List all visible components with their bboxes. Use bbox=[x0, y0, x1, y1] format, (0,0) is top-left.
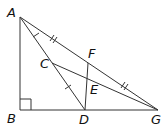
label-d: D bbox=[79, 112, 89, 125]
tick-ac bbox=[33, 33, 39, 37]
label-f: F bbox=[88, 46, 96, 61]
segment-df bbox=[85, 63, 88, 110]
label-c: C bbox=[40, 56, 50, 71]
label-g: G bbox=[151, 112, 161, 125]
geometry-diagram: A B C D E F G bbox=[0, 0, 168, 125]
right-angle-marker bbox=[20, 99, 31, 110]
label-e: E bbox=[90, 82, 99, 97]
label-a: A bbox=[6, 5, 16, 20]
label-b: B bbox=[7, 111, 16, 125]
